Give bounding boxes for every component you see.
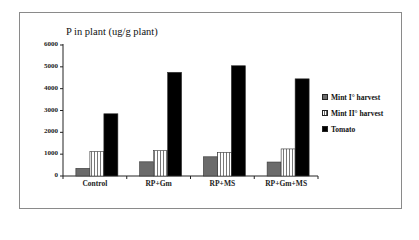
legend-swatch-black-icon xyxy=(322,126,328,132)
y-tick-label: 6000 xyxy=(28,40,58,48)
y-tick-label: 0 xyxy=(28,171,58,179)
bar xyxy=(90,152,104,176)
bar xyxy=(295,79,309,176)
legend-swatch-gray-icon xyxy=(322,94,328,100)
y-tick-label: 5000 xyxy=(28,62,58,70)
y-tick-label: 1000 xyxy=(28,149,58,157)
y-tick-label: 3000 xyxy=(28,106,58,114)
legend-swatch-striped-icon xyxy=(322,110,328,116)
bar xyxy=(76,168,90,176)
y-tick-label: 4000 xyxy=(28,84,58,92)
bar xyxy=(154,151,168,176)
bar xyxy=(231,66,245,176)
legend-item-tomato: Tomato xyxy=(322,121,383,137)
bar xyxy=(104,114,118,176)
bar xyxy=(267,162,281,176)
bar xyxy=(168,72,182,176)
x-category-label: RP+Gm+MS xyxy=(246,179,326,188)
legend-item-mint-2: Mint II° harvest xyxy=(322,105,383,121)
bar xyxy=(203,157,217,176)
legend: Mint I° harvest Mint II° harvest Tomato xyxy=(322,89,383,137)
bar xyxy=(140,162,154,176)
bars xyxy=(76,66,309,176)
legend-item-mint-1: Mint I° harvest xyxy=(322,89,383,105)
bar xyxy=(281,149,295,176)
y-tick-label: 2000 xyxy=(28,127,58,135)
bar xyxy=(217,152,231,176)
